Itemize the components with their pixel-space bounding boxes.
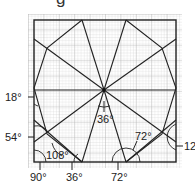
angle-label-12-cropped: 12 [184, 140, 195, 152]
angle-label-108: 108° [46, 149, 69, 161]
angle-label-36-center: 36° [97, 113, 114, 125]
center-point [102, 88, 106, 92]
angle-label-72-bottom: 72° [111, 171, 128, 183]
angle-label-36-bottom: 36° [66, 171, 83, 183]
angle-label-18: 18° [5, 91, 22, 103]
angle-label-54: 54° [5, 131, 22, 143]
angle-label-90: 90° [30, 171, 47, 183]
angle-label-72-inner: 72° [135, 130, 152, 142]
geometry-diagram: 18° 54° 90° 36° 72° 108° 36° 72° 12 [0, 0, 195, 194]
